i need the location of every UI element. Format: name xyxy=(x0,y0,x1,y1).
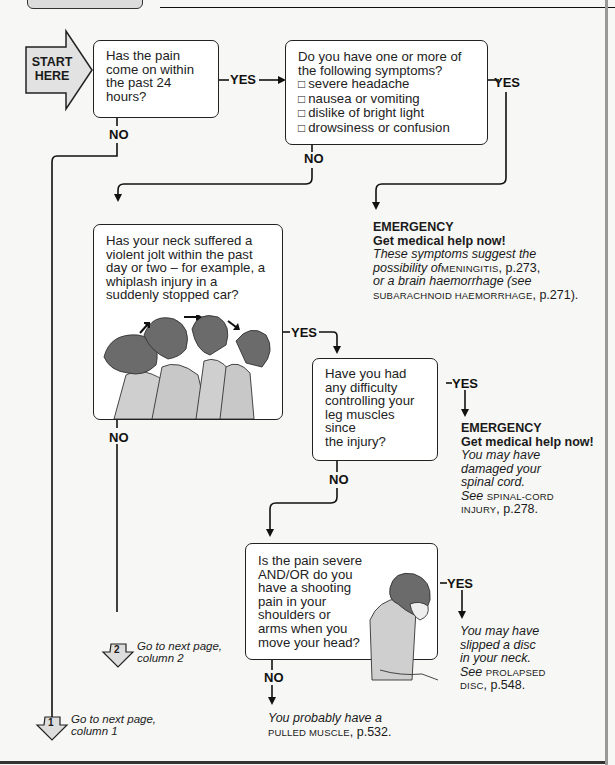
q1-no-label: NO xyxy=(109,127,129,142)
page-ref: , p.548. xyxy=(484,678,526,692)
q3-line: violent jolt within the past xyxy=(106,248,265,262)
page-ref: , p.271). xyxy=(532,288,578,302)
outcome-text-line: You may have xyxy=(460,625,605,639)
cross-reference-injury: INJURY xyxy=(461,504,496,515)
start-label-line2: HERE xyxy=(28,69,76,83)
q3-line: whiplash injury in a xyxy=(106,275,265,289)
question-text-leg-control: Have you had any difficulty controlling … xyxy=(325,367,414,449)
q3-line: Has your neck suffered a xyxy=(106,234,265,248)
q4-line: controlling your xyxy=(325,394,414,408)
outcome-text-line: You may have xyxy=(461,449,606,463)
cross-reference-subarachnoid: SUBARACHNOID HAEMORRHAGE xyxy=(373,290,532,301)
q4-yes-label: YES xyxy=(452,376,478,391)
q4-line: since xyxy=(325,421,414,435)
outcome-text-line: possibility ofMENINGITIS, p.273, xyxy=(373,262,603,276)
page-ref: , p.273, xyxy=(499,261,541,275)
outcome-text-line: DISC, p.548. xyxy=(460,679,605,693)
q1-yes-label: YES xyxy=(230,72,256,87)
outcome-emergency-spinal-cord: EMERGENCY Get medical help now! You may … xyxy=(461,421,606,517)
question-text-pain-onset: Has the pain come on within the past 24 … xyxy=(106,49,194,103)
goto-line: column 2 xyxy=(137,652,222,664)
outcome-slipped-disc: You may have slipped a disc in your neck… xyxy=(460,625,605,693)
goto-next-page-column-1[interactable]: Go to next page, column 1 xyxy=(71,713,156,737)
cross-reference-meningitis: MENINGITIS xyxy=(441,263,498,274)
q4-line: any difficulty xyxy=(325,381,414,395)
q4-line: leg muscles xyxy=(325,408,414,422)
outcome-text-line: These symptoms suggest the xyxy=(373,248,603,262)
q2-yes-label: YES xyxy=(494,75,520,90)
symptom-checkbox-item: dislike of bright light xyxy=(298,106,461,121)
outcome-text-line: See SPINAL-CORD xyxy=(461,490,606,504)
question-text-severe-pain: Is the pain severe AND/OR do you have a … xyxy=(258,554,362,649)
outcome-emergency-meningitis: EMERGENCY Get medical help now! These sy… xyxy=(373,220,603,302)
emergency-subtitle: Get medical help now! xyxy=(373,234,603,248)
q5-yes-label: YES xyxy=(447,576,473,591)
outcome-text-line: You probably have a xyxy=(268,712,418,726)
outcome-pulled-muscle: You probably have a PULLED MUSCLE, p.532… xyxy=(268,712,418,739)
outcome-text-line: spinal cord. xyxy=(461,476,606,490)
outcome-text-line: PULLED MUSCLE, p.532. xyxy=(268,726,418,740)
outcome-text-line: damaged your xyxy=(461,463,606,477)
q1-line: Has the pain xyxy=(106,49,194,63)
q3-line: suddenly stopped car? xyxy=(106,288,265,302)
page-ref: , p.532. xyxy=(350,725,392,739)
q5-line: pain in your xyxy=(258,595,362,609)
outcome-text-line: slipped a disc xyxy=(460,639,605,653)
cross-reference-disc: DISC xyxy=(460,680,484,691)
start-label-line1: START xyxy=(28,55,76,69)
q1-line: hours? xyxy=(106,90,194,104)
q2-intro-line: the following symptoms? xyxy=(298,64,461,78)
q4-line: Have you had xyxy=(325,367,414,381)
goto-column-1-number: 1 xyxy=(48,717,54,728)
q3-no-label: NO xyxy=(109,430,129,445)
outcome-text-line: or a brain haemorrhage (see xyxy=(373,275,603,289)
goto-next-page-column-2[interactable]: Go to next page, column 2 xyxy=(137,640,222,664)
person-bending-head-illustration xyxy=(360,570,440,690)
text-segment: See xyxy=(460,665,486,679)
q4-no-label: NO xyxy=(329,472,349,487)
text-segment: possibility of xyxy=(373,261,441,275)
text-segment: See xyxy=(461,489,487,503)
outcome-text-line: INJURY, p.278. xyxy=(461,503,606,517)
start-here-label: START HERE xyxy=(28,55,76,83)
goto-column-2-number: 2 xyxy=(114,644,120,655)
goto-line: Go to next page, xyxy=(71,713,156,725)
q5-line: arms when you xyxy=(258,622,362,636)
q3-yes-label: YES xyxy=(291,325,317,340)
symptom-checkbox-item: drowsiness or confusion xyxy=(298,121,461,136)
emergency-title: EMERGENCY xyxy=(373,220,603,234)
page-ref: , p.278. xyxy=(496,502,538,516)
cross-reference-pulled-muscle: PULLED MUSCLE xyxy=(268,727,350,738)
symptom-checkbox-item: nausea or vomiting xyxy=(298,92,461,107)
q2-intro-line: Do you have one or more of xyxy=(298,50,461,64)
symptom-checkbox-item: severe headache xyxy=(298,77,461,92)
q2-no-label: NO xyxy=(304,151,324,166)
outcome-text-line: See PROLAPSED xyxy=(460,666,605,680)
question-text-neck-jolt: Has your neck suffered a violent jolt wi… xyxy=(106,234,265,302)
goto-line: Go to next page, xyxy=(137,640,222,652)
question-text-symptoms: Do you have one or more of the following… xyxy=(298,50,461,136)
q5-line: Is the pain severe xyxy=(258,554,362,568)
q5-line: move your head? xyxy=(258,636,362,650)
goto-line: column 1 xyxy=(71,725,156,737)
page-right-edge xyxy=(605,0,608,765)
cross-reference-spinal-cord: SPINAL-CORD xyxy=(487,491,554,502)
cross-reference-prolapsed: PROLAPSED xyxy=(486,667,546,678)
q1-line: the past 24 xyxy=(106,76,194,90)
q5-line: shoulders or xyxy=(258,608,362,622)
emergency-title: EMERGENCY xyxy=(461,421,606,435)
outcome-text-line: SUBARACHNOID HAEMORRHAGE, p.271). xyxy=(373,289,603,303)
q5-line: AND/OR do you xyxy=(258,568,362,582)
q5-line: have a shooting xyxy=(258,581,362,595)
q3-line: day or two – for example, a xyxy=(106,261,265,275)
q1-line: come on within xyxy=(106,63,194,77)
whiplash-illustration xyxy=(100,315,280,419)
page-bottom-rule xyxy=(0,761,608,764)
q4-line: the injury? xyxy=(325,435,414,449)
q5-no-label: NO xyxy=(264,670,284,685)
outcome-text-line: in your neck. xyxy=(460,652,605,666)
emergency-subtitle: Get medical help now! xyxy=(461,435,606,449)
